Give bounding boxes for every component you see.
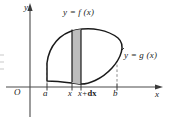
y-axis <box>27 3 32 117</box>
scan-artifact <box>0 52 4 74</box>
tick-label-x-plus-dx-prefix: x+ <box>78 88 88 98</box>
figure-area-between-curves: y = f (x) y = g (x) y x O a x x+dx b <box>0 0 169 123</box>
tick-label-dx: dx <box>88 88 97 98</box>
tick-label-b: b <box>113 89 118 98</box>
y-axis-label: y <box>24 3 28 12</box>
origin-label: O <box>14 88 21 97</box>
region-outline <box>47 29 122 84</box>
tick-label-a: a <box>43 89 48 98</box>
curve-label-f: y = f (x) <box>63 8 94 17</box>
x-axis-label: x <box>155 90 159 99</box>
curve-label-g: y = g (x) <box>124 51 157 60</box>
tick-label-x-plus-dx: x+dx <box>78 89 97 98</box>
tick-label-x: x <box>68 89 72 98</box>
figure-canvas <box>0 0 169 123</box>
